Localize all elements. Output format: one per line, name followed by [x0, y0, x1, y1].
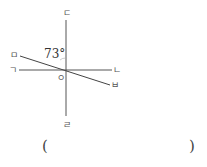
angle-label: 73° [44, 48, 65, 60]
point-label-right: ㄴ [113, 66, 121, 75]
center-label: ㅇ [57, 74, 65, 83]
point-label-upper-left: ㅁ [10, 51, 18, 60]
point-label-left: ㄱ [9, 66, 17, 75]
point-label-bottom: ㄹ [63, 121, 71, 130]
answer-blank[interactable] [52, 139, 187, 157]
point-label-lower-right: ㅂ [111, 81, 119, 90]
answer-open-paren: ( [42, 139, 48, 154]
answer-close-paren: ) [189, 139, 195, 154]
point-label-top: ㄷ [63, 9, 71, 18]
